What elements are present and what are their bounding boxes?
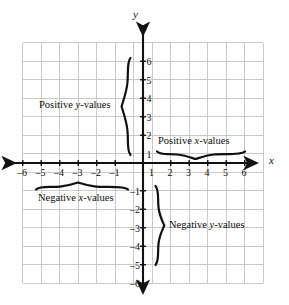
- x-tick-pos-3: 3: [186, 168, 191, 178]
- x-tick-neg-1: –1: [110, 168, 120, 178]
- x-tick-neg-6: –6: [17, 168, 27, 178]
- y-tick-pos-6: 6: [147, 57, 152, 67]
- positive-y-values-suffix: -values: [80, 99, 110, 110]
- y-tick-pos-3: 3: [147, 113, 152, 123]
- x-tick-pos-4: 4: [205, 168, 210, 178]
- y-axis-label: y: [133, 9, 138, 20]
- y-tick-neg-3: –3: [130, 224, 140, 234]
- x-tick-pos-1: 1: [149, 168, 154, 178]
- y-tick-neg-1: –1: [130, 187, 140, 197]
- y-tick-neg-5: –5: [130, 261, 140, 271]
- positive-x-values-suffix: -values: [199, 135, 229, 146]
- negative-y-values-prefix: Negative: [169, 219, 210, 230]
- y-tick-neg-4: –4: [130, 242, 140, 252]
- x-tick-neg-5: –5: [36, 168, 46, 178]
- positive-y-brace: [122, 58, 131, 155]
- negative-y-brace: [156, 186, 165, 265]
- x-tick-pos-5: 5: [223, 168, 228, 178]
- x-axis: [14, 160, 256, 166]
- coordinate-plane-svg: [0, 0, 289, 305]
- x-tick-neg-3: –3: [73, 168, 83, 178]
- negative-x-values-suffix: -values: [83, 192, 113, 203]
- positive-x-values-prefix: Positive: [158, 135, 194, 146]
- positive-x-brace: [157, 152, 245, 160]
- y-tick-pos-1: 1: [147, 150, 152, 160]
- negative-x-values-label: Negative x-values: [38, 193, 114, 204]
- coordinate-plane-figure: y x –6 –5 –4 –3 –2 –1 1 2 3 4 5 6 6 5 4 …: [0, 0, 289, 305]
- positive-x-values-label: Positive x-values: [158, 136, 229, 147]
- negative-x-brace: [36, 183, 128, 190]
- x-tick-neg-2: –2: [91, 168, 101, 178]
- negative-x-values-prefix: Negative: [38, 192, 79, 203]
- y-tick-pos-5: 5: [147, 76, 152, 86]
- negative-y-values-suffix: -values: [214, 219, 244, 230]
- positive-y-values-prefix: Positive: [39, 99, 75, 110]
- x-tick-pos-6: 6: [242, 168, 247, 178]
- x-tick-pos-2: 2: [168, 168, 173, 178]
- y-tick-pos-2: 2: [147, 131, 152, 141]
- positive-y-values-label: Positive y-values: [39, 100, 110, 111]
- negative-y-values-label: Negative y-values: [169, 220, 245, 231]
- x-axis-label: x: [269, 155, 274, 166]
- x-tick-neg-4: –4: [54, 168, 64, 178]
- y-tick-pos-4: 4: [147, 94, 152, 104]
- y-tick-neg-6: –6: [130, 279, 140, 289]
- y-tick-neg-2: –2: [130, 205, 140, 215]
